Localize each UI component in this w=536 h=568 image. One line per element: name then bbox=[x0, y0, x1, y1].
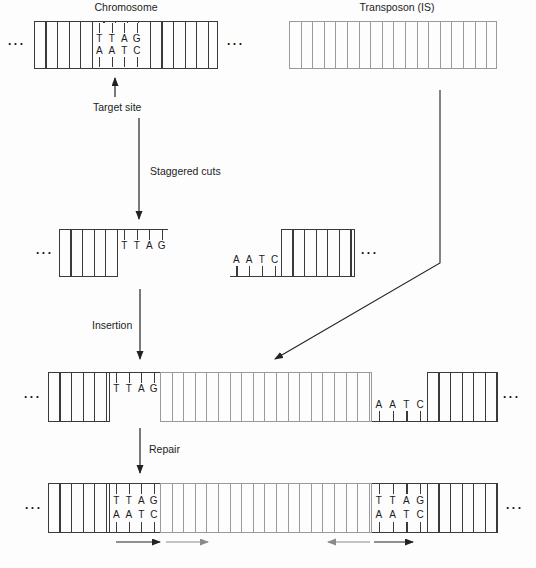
transposon-label: Transposon (IS) bbox=[328, 1, 466, 13]
base-letter: A bbox=[386, 509, 400, 521]
base-letter: T bbox=[372, 495, 386, 507]
chromosome-right-ladder bbox=[427, 372, 498, 422]
base-letter: T bbox=[256, 254, 269, 266]
base-letter: A bbox=[372, 399, 386, 411]
right-junction-overhang: AATC bbox=[372, 396, 427, 422]
transposon-ladder bbox=[289, 21, 497, 69]
repeat-ticks-top bbox=[372, 484, 427, 494]
base-letter: A bbox=[123, 509, 136, 521]
base-letter: A bbox=[243, 254, 256, 266]
base-letter: A bbox=[106, 45, 119, 57]
base-letter: C bbox=[131, 45, 144, 57]
cut-fragment-left-overhang: TTAG bbox=[118, 229, 168, 255]
repeat-bottom-strand: AATC bbox=[372, 509, 427, 521]
target-site-ticks-bottom bbox=[93, 57, 143, 67]
overhang-bottom-strand: AATC bbox=[372, 399, 427, 411]
chromosome-left-ladder bbox=[48, 372, 110, 422]
base-letter: T bbox=[110, 383, 123, 395]
repeat-top-strand: TTAG bbox=[110, 495, 160, 507]
overhang-top-strand: TTAG bbox=[110, 383, 160, 395]
base-letter: T bbox=[118, 45, 131, 57]
base-letter: T bbox=[131, 240, 144, 252]
cut-fragment-left-ladder bbox=[59, 229, 118, 277]
target-site-sequence: TTAG AATC bbox=[93, 23, 143, 68]
base-letter: A bbox=[135, 495, 148, 507]
base-letter: T bbox=[400, 509, 414, 521]
cut-fragment-right-overhang: AATC bbox=[230, 251, 281, 277]
base-letter: G bbox=[148, 383, 161, 395]
repair-label: Repair bbox=[149, 443, 180, 455]
base-letter: C bbox=[268, 254, 281, 266]
repaired-transposon-ladder bbox=[160, 483, 372, 533]
target-site-label: Target site bbox=[93, 101, 141, 113]
repeat-ticks-bottom bbox=[110, 522, 160, 532]
direct-repeat-right: TTAG AATC bbox=[372, 483, 427, 533]
overhang-ticks bbox=[110, 373, 160, 383]
repeat-ticks-bottom bbox=[372, 522, 427, 532]
ellipsis-left-row4: ... bbox=[25, 498, 43, 512]
inserted-transposon-ladder bbox=[160, 372, 372, 422]
staggered-cuts-label: Staggered cuts bbox=[150, 165, 221, 177]
base-letter: C bbox=[413, 509, 427, 521]
base-letter: T bbox=[118, 240, 131, 252]
base-letter: C bbox=[148, 509, 161, 521]
chromosome-label: Chromosome bbox=[61, 1, 191, 13]
ellipsis-right-row2: ... bbox=[361, 243, 379, 257]
base-letter: A bbox=[143, 240, 156, 252]
base-letter: A bbox=[386, 399, 400, 411]
repeat-bottom-strand: AATC bbox=[110, 509, 160, 521]
ellipsis-right-row4: ... bbox=[506, 498, 524, 512]
base-letter: T bbox=[110, 495, 123, 507]
target-site-ticks-top bbox=[93, 23, 143, 33]
base-letter: T bbox=[93, 33, 106, 45]
base-letter: A bbox=[110, 509, 123, 521]
base-letter: G bbox=[131, 33, 144, 45]
base-letter: T bbox=[135, 509, 148, 521]
overhang-bottom-strand: AATC bbox=[230, 254, 281, 266]
direct-repeat-left: TTAG AATC bbox=[110, 483, 160, 533]
overhang-ticks bbox=[118, 230, 168, 240]
repeat-top-strand: TTAG bbox=[372, 495, 427, 507]
overhang-ticks bbox=[230, 266, 281, 276]
ellipsis-left-row2: ... bbox=[36, 243, 54, 257]
overhang-top-strand: TTAG bbox=[118, 240, 168, 252]
transposon-insertion-diagram: Chromosome Transposon (IS) ... TTAG AATC… bbox=[0, 0, 536, 568]
base-letter: T bbox=[106, 33, 119, 45]
target-site-top-strand: TTAG bbox=[93, 33, 143, 45]
base-letter: A bbox=[230, 254, 243, 266]
base-letter: G bbox=[413, 495, 427, 507]
insertion-label: Insertion bbox=[92, 319, 132, 331]
ellipsis-right-row1: ... bbox=[227, 34, 245, 48]
ellipsis-right-row3: ... bbox=[503, 387, 521, 401]
repaired-chromosome-right-ladder bbox=[427, 483, 498, 533]
base-letter: T bbox=[123, 383, 136, 395]
ellipsis-left-row1: ... bbox=[8, 34, 26, 48]
base-letter: A bbox=[93, 45, 106, 57]
left-junction-overhang: TTAG bbox=[110, 372, 160, 398]
base-letter: T bbox=[123, 495, 136, 507]
base-letter: T bbox=[400, 399, 414, 411]
ellipsis-left-row3: ... bbox=[24, 387, 42, 401]
base-letter: T bbox=[386, 495, 400, 507]
cut-fragment-right-ladder bbox=[281, 229, 355, 277]
base-letter: G bbox=[156, 240, 169, 252]
base-letter: A bbox=[372, 509, 386, 521]
base-letter: A bbox=[400, 495, 414, 507]
base-letter: C bbox=[413, 399, 427, 411]
base-letter: A bbox=[135, 383, 148, 395]
overhang-ticks bbox=[372, 411, 427, 421]
transposon-transfer-arrow bbox=[275, 90, 440, 359]
base-letter: G bbox=[148, 495, 161, 507]
repeat-ticks-top bbox=[110, 484, 160, 494]
base-letter: A bbox=[118, 33, 131, 45]
target-site-bottom-strand: AATC bbox=[93, 45, 143, 57]
repaired-chromosome-left-ladder bbox=[48, 483, 110, 533]
